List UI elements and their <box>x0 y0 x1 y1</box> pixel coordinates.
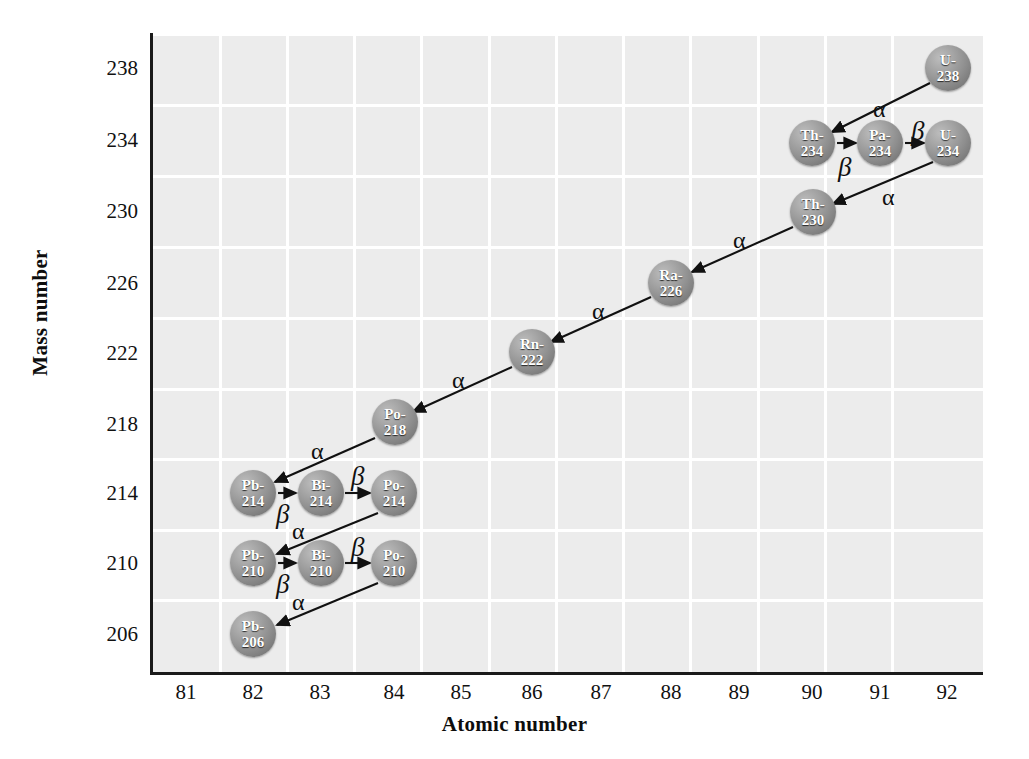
decay-label-beta: β <box>276 569 289 600</box>
nuclide-node[interactable]: Po- 210 <box>371 540 417 586</box>
y-tick-label: 222 <box>60 341 138 366</box>
x-tick-label: 81 <box>156 680 216 705</box>
y-axis-line <box>150 33 153 675</box>
y-tick-label: 234 <box>60 128 138 153</box>
nuclide-symbol: Pb- <box>242 478 265 493</box>
nuclide-node[interactable]: Pb- 214 <box>230 470 276 516</box>
gridline-vertical <box>689 36 692 672</box>
x-tick-label: 90 <box>782 680 842 705</box>
nuclide-symbol: Po- <box>384 407 406 422</box>
nuclide-symbol: Po- <box>383 478 405 493</box>
nuclide-node[interactable]: Bi- 214 <box>298 470 344 516</box>
y-tick-label: 226 <box>60 271 138 296</box>
y-axis-title: Mass number <box>28 193 53 433</box>
nuclide-symbol: Bi- <box>311 478 330 493</box>
gridline-vertical <box>622 36 625 672</box>
nuclide-node[interactable]: Pb- 206 <box>230 611 276 657</box>
decay-label-alpha: α <box>292 589 305 616</box>
x-tick-label: 82 <box>223 680 283 705</box>
gridline-vertical <box>555 36 558 672</box>
decay-label-beta: β <box>351 461 364 492</box>
decay-label-alpha: α <box>882 184 895 211</box>
decay-label-alpha: α <box>311 438 324 465</box>
nuclide-symbol: Po- <box>383 548 405 563</box>
gridline-horizontal <box>152 104 983 107</box>
nuclide-node[interactable]: Rn- 222 <box>509 329 555 375</box>
nuclide-symbol: Bi- <box>311 548 330 563</box>
nuclide-symbol: Pb- <box>242 619 265 634</box>
decay-label-beta: β <box>276 499 289 530</box>
nuclide-mass: 218 <box>384 423 407 438</box>
nuclide-symbol: Rn- <box>520 337 544 352</box>
gridline-vertical <box>420 36 423 672</box>
nuclide-mass: 230 <box>802 213 825 228</box>
decay-label-beta: β <box>838 152 851 183</box>
decay-label-alpha: α <box>592 298 605 325</box>
nuclide-symbol: Pa- <box>869 128 891 143</box>
decay-label-alpha: α <box>733 227 746 254</box>
nuclide-mass: 210 <box>242 564 265 579</box>
gridline-horizontal <box>152 175 983 178</box>
gridline-horizontal <box>152 317 983 320</box>
nuclide-mass: 234 <box>869 144 892 159</box>
nuclide-mass: 234 <box>801 144 824 159</box>
gridline-vertical <box>219 36 222 672</box>
x-tick-label: 85 <box>431 680 491 705</box>
nuclide-symbol: Th- <box>801 197 824 212</box>
gridline-horizontal <box>152 246 983 249</box>
x-tick-label: 83 <box>290 680 350 705</box>
decay-label-alpha: α <box>873 96 886 123</box>
decay-label-beta: β <box>911 116 924 147</box>
nuclide-mass: 238 <box>937 69 960 84</box>
nuclide-node[interactable]: Bi- 210 <box>298 540 344 586</box>
x-axis-title: Atomic number <box>0 712 1029 737</box>
nuclide-node[interactable]: Pb- 210 <box>230 540 276 586</box>
x-tick-label: 84 <box>364 680 424 705</box>
x-axis-line <box>150 672 983 675</box>
x-tick-label: 88 <box>641 680 701 705</box>
nuclide-node[interactable]: Po- 218 <box>372 399 418 445</box>
y-tick-label: 214 <box>60 481 138 506</box>
gridline-vertical <box>488 36 491 672</box>
gridline-vertical <box>757 36 760 672</box>
nuclide-mass: 210 <box>310 564 333 579</box>
y-tick-label: 230 <box>60 199 138 224</box>
x-tick-label: 86 <box>502 680 562 705</box>
x-tick-label: 92 <box>917 680 977 705</box>
nuclide-node[interactable]: U- 238 <box>925 45 971 91</box>
nuclide-mass: 234 <box>937 144 960 159</box>
nuclide-mass: 222 <box>521 353 544 368</box>
y-tick-label: 206 <box>60 622 138 647</box>
x-tick-label: 89 <box>709 680 769 705</box>
nuclide-mass: 214 <box>242 494 265 509</box>
nuclide-symbol: U- <box>940 53 956 68</box>
x-tick-label: 87 <box>571 680 631 705</box>
nuclide-mass: 206 <box>242 635 265 650</box>
y-tick-label: 218 <box>60 412 138 437</box>
nuclide-mass: 214 <box>383 494 406 509</box>
nuclide-node[interactable]: U- 234 <box>925 120 971 166</box>
nuclide-symbol: Ra- <box>659 268 682 283</box>
x-tick-label: 91 <box>850 680 910 705</box>
gridline-vertical <box>353 36 356 672</box>
nuclide-symbol: Th- <box>800 128 823 143</box>
y-tick-label: 210 <box>60 551 138 576</box>
nuclide-node[interactable]: Th- 234 <box>789 120 835 166</box>
nuclide-node[interactable]: Ra- 226 <box>648 260 694 306</box>
nuclide-node[interactable]: Th- 230 <box>790 189 836 235</box>
nuclide-node[interactable]: Po- 214 <box>371 470 417 516</box>
figure-canvas: U- 238 Th- 234 Pa- 234 U- 234 Th- 230 Ra… <box>0 0 1029 759</box>
nuclide-symbol: Pb- <box>242 548 265 563</box>
decay-label-beta: β <box>351 532 364 563</box>
nuclide-mass: 214 <box>310 494 333 509</box>
decay-label-alpha: α <box>292 518 305 545</box>
y-tick-label: 238 <box>60 56 138 81</box>
nuclide-node[interactable]: Pa- 234 <box>857 120 903 166</box>
gridline-horizontal <box>152 458 983 461</box>
nuclide-mass: 210 <box>383 564 406 579</box>
decay-label-alpha: α <box>452 367 465 394</box>
nuclide-symbol: U- <box>940 128 956 143</box>
nuclide-mass: 226 <box>660 284 683 299</box>
gridline-horizontal <box>152 388 983 391</box>
